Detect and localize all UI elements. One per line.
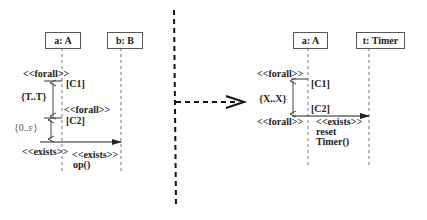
interval-2-label: {0..ε} (14, 123, 38, 133)
interval-1-label: {T..T} (21, 92, 46, 102)
lifeline-box-left-b: b: B (107, 32, 143, 49)
exists-left-label: <<exists>> (22, 147, 68, 157)
lifeline-box-right-timer: t: Timer (356, 32, 405, 49)
c1-label: [C1] (66, 79, 85, 89)
forall-top-label: <<forall>> (23, 69, 69, 79)
message-line2-label: Timer() (316, 137, 349, 147)
lifeline-box-left-a: a: A (45, 32, 81, 49)
c1-label-right: [C1] (311, 79, 330, 89)
lifeline-label: b: B (116, 35, 134, 46)
c2-label-right: [C2] (311, 104, 330, 114)
forall-mid-label: <<forall>> (64, 105, 110, 115)
forall-top-label-right: <<forall>> (257, 69, 303, 79)
message-label: op() (73, 160, 90, 170)
interval-label-right: {X..X} (259, 94, 286, 104)
forall-bottom-label-right: <<forall>> (257, 117, 303, 127)
c2-label: [C2] (66, 116, 85, 126)
lifeline-box-right-a: a: A (293, 32, 328, 49)
lifeline-label: t: Timer (363, 35, 398, 46)
lifeline-label: a: A (54, 35, 72, 46)
lifeline-label: a: A (302, 35, 320, 46)
diagram-canvas: a: A b: B <<forall>> [C1] {T..T} <<foral… (0, 0, 427, 220)
divider (174, 10, 176, 205)
